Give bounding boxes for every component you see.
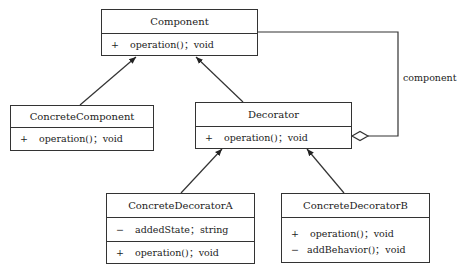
class-name: ConcreteDecoratorB bbox=[282, 194, 429, 218]
operation-row: + operation()；void bbox=[11, 133, 153, 145]
class-name: Component bbox=[102, 10, 257, 34]
operation-row: + operation()；void bbox=[107, 247, 254, 259]
operation-row: + operation()；void bbox=[102, 39, 257, 51]
class-concretecomponent[interactable]: ConcreteComponent + operation()；void bbox=[10, 105, 154, 151]
operation-text: operation()；void bbox=[224, 132, 308, 144]
operations-section: + operation()；void bbox=[102, 34, 257, 51]
class-concretedecoratora[interactable]: ConcreteDecoratorA − addedState；string +… bbox=[106, 193, 255, 264]
attributes-section: − addedState；string bbox=[107, 218, 254, 242]
visibility-marker: + bbox=[115, 247, 125, 259]
class-component[interactable]: Component + operation()；void bbox=[101, 9, 258, 56]
operation-text: operation()；void bbox=[310, 226, 394, 242]
class-concretedecoratorb[interactable]: ConcreteDecoratorB + operation()；void − … bbox=[281, 193, 430, 263]
operation-text: operation()；void bbox=[135, 247, 219, 259]
attribute-row: − addedState；string bbox=[107, 224, 254, 236]
operations-section: + operation()；void bbox=[196, 127, 351, 144]
class-name: ConcreteDecoratorA bbox=[107, 194, 254, 218]
attribute-text: addedState；string bbox=[135, 224, 228, 236]
visibility-marker: − bbox=[115, 224, 125, 236]
operation-text: operation()；void bbox=[130, 39, 214, 51]
visibility-marker: + bbox=[110, 39, 120, 51]
visibility-marker: + bbox=[19, 133, 29, 145]
operations-section: + operation()；void bbox=[107, 242, 254, 259]
operation-row: + operation()；void bbox=[196, 132, 351, 144]
class-name: ConcreteComponent bbox=[11, 106, 153, 128]
operation-row: − addBehavior()；void bbox=[282, 242, 429, 258]
inheritance-arrow-decoratorb bbox=[307, 149, 344, 193]
visibility-marker: + bbox=[290, 226, 300, 242]
operations-section: + operation()；void − addBehavior()；void bbox=[282, 218, 429, 258]
inheritance-arrow-decorator bbox=[196, 57, 243, 102]
aggregation-label: component bbox=[403, 72, 457, 83]
aggregation-diamond bbox=[352, 132, 368, 141]
operation-text: addBehavior()；void bbox=[307, 242, 406, 258]
inheritance-arrow-concretecomponent bbox=[80, 57, 136, 105]
operation-text: operation()；void bbox=[39, 133, 123, 145]
visibility-marker: − bbox=[290, 242, 300, 258]
class-decorator[interactable]: Decorator + operation()；void bbox=[195, 102, 352, 149]
class-name: Decorator bbox=[196, 103, 351, 127]
inheritance-arrow-decoratora bbox=[181, 149, 222, 193]
operation-row: + operation()；void bbox=[282, 226, 429, 242]
visibility-marker: + bbox=[204, 132, 214, 144]
operations-section: + operation()；void bbox=[11, 128, 153, 145]
